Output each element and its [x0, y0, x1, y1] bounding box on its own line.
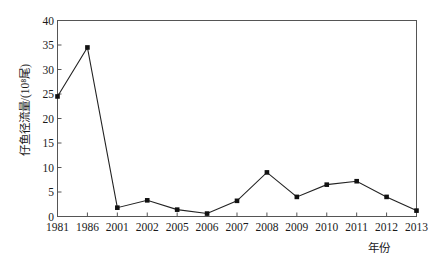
data-point-marker [295, 195, 300, 200]
data-point-marker [55, 94, 60, 99]
data-point-marker [175, 207, 180, 212]
data-point-marker [235, 199, 240, 204]
data-point-marker [384, 195, 389, 200]
data-point-marker [324, 182, 329, 187]
plot-area [0, 0, 442, 266]
data-point-marker [145, 198, 150, 203]
data-point-marker [265, 170, 270, 175]
plot-frame [58, 21, 417, 217]
data-point-marker [85, 45, 90, 50]
data-point-marker [414, 208, 419, 213]
data-point-marker [205, 211, 210, 216]
chart-figure: 仔鱼径流量/(10⁸尾) 年份 0510152025303540 1981198… [0, 0, 442, 266]
data-point-marker [115, 205, 120, 210]
data-point-marker [354, 179, 359, 184]
